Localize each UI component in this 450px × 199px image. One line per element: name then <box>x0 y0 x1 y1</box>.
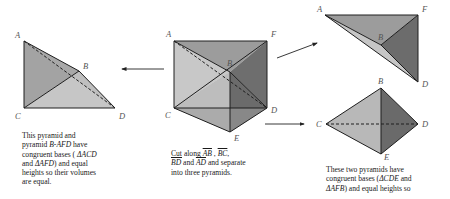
caption-text: ) and equal heights so <box>344 184 410 193</box>
top-right-pyramid: A F B D <box>316 4 429 89</box>
label-c: C <box>316 119 322 129</box>
arrow-up-right-icon <box>277 43 317 58</box>
label-e: E <box>233 133 240 143</box>
caption-text: congruent bases ( <box>326 174 379 183</box>
label-e: E <box>383 152 390 162</box>
pyramid-name: B-AFD <box>49 140 71 149</box>
label-f: F <box>270 29 277 39</box>
label-a: A <box>14 30 21 40</box>
caption-left: This pyramid and pyramid B-AFD have cong… <box>22 131 134 187</box>
label-c: C <box>15 111 21 121</box>
caption-text: and <box>399 174 412 183</box>
caption-text: , <box>227 149 229 158</box>
caption-line: are equal. <box>22 177 52 186</box>
triangle-name: ΔCDE <box>379 174 399 183</box>
center-prism: A F B C D E <box>165 29 278 143</box>
label-c: C <box>165 110 171 120</box>
caption-line: heights so their volumes <box>22 168 96 177</box>
segment-ab: AB <box>203 149 212 158</box>
caption-center: Cut along AB , BC, BD and AD and separat… <box>171 149 291 177</box>
label-d: D <box>270 105 278 115</box>
caption-text: and separate <box>206 158 246 167</box>
caption-text: congruent bases ( <box>22 150 77 159</box>
label-b: B <box>227 58 232 68</box>
label-a: A <box>165 29 172 39</box>
label-d: D <box>118 111 126 121</box>
caption-text: and <box>181 158 196 167</box>
label-b: B <box>83 61 88 71</box>
caption-text: along <box>182 149 203 158</box>
caption-line: These two pyramids have <box>326 165 404 174</box>
face-bce <box>326 88 381 154</box>
label-d: D <box>421 79 429 89</box>
triangle-name: ΔAFD <box>35 159 54 168</box>
cut-word: Cut <box>171 149 182 158</box>
caption-line: This pyramid and <box>22 131 76 140</box>
face-bde <box>381 88 418 154</box>
label-a: A <box>316 4 323 14</box>
left-pyramid: A B C D <box>14 30 126 121</box>
triangle-name: ΔACD <box>77 150 97 159</box>
caption-text: have <box>71 140 87 149</box>
triangle-name: ΔAFB <box>326 184 344 193</box>
caption-line: into three pyramids. <box>171 168 232 177</box>
label-d: D <box>421 119 429 129</box>
label-f: F <box>421 4 428 14</box>
label-b: B <box>378 32 383 42</box>
caption-right: These two pyramids have congruent bases … <box>326 165 450 193</box>
caption-text: and <box>22 159 35 168</box>
label-b: B <box>378 76 383 86</box>
segment-bd: BD <box>171 158 181 167</box>
caption-text: pyramid <box>22 140 49 149</box>
segment-bc: BC <box>218 149 228 158</box>
bottom-right-pyramid: B C D E <box>316 76 429 162</box>
caption-text: ) and equal <box>54 159 88 168</box>
segment-ad: AD <box>196 158 206 167</box>
